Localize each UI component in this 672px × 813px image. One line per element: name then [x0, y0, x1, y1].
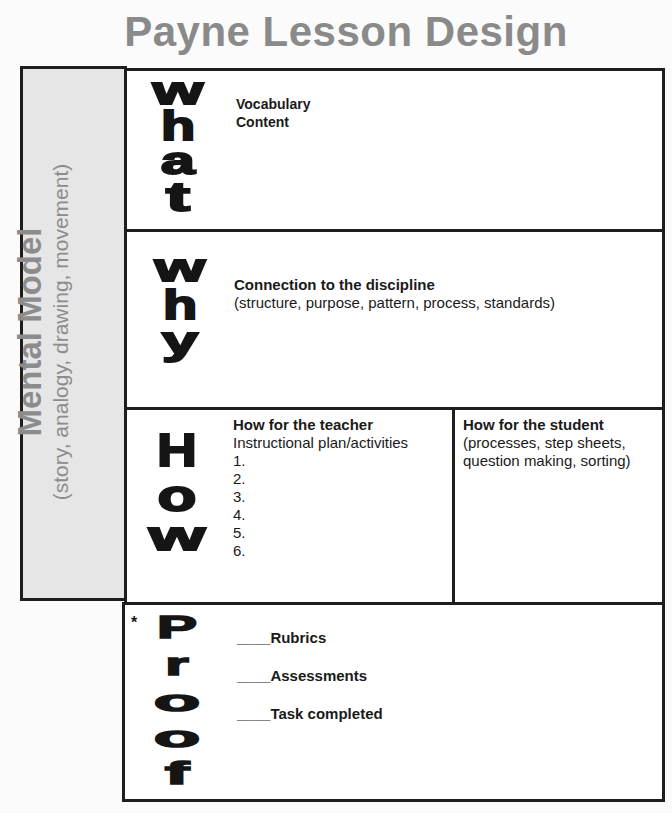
checklist-blank[interactable]: ____ — [237, 629, 270, 646]
why-stacked-letters: w h y — [145, 250, 215, 358]
page-title: Payne Lesson Design — [0, 8, 672, 56]
checklist-label: Task completed — [270, 705, 382, 722]
letter-o: o — [126, 476, 228, 516]
what-content: Content — [236, 113, 310, 131]
what-vocabulary: Vocabulary — [236, 95, 310, 113]
how-student-detail-1: (processes, step sheets, — [463, 434, 631, 452]
checklist-item-task-completed[interactable]: ____Task completed — [237, 705, 383, 723]
why-text: Connection to the discipline (structure,… — [234, 276, 555, 312]
checklist-blank[interactable]: ____ — [237, 705, 270, 722]
checklist-label: Assessments — [270, 667, 367, 684]
letter-o: o — [111, 687, 244, 714]
list-item: 6. — [233, 542, 408, 560]
letter-w: w — [121, 250, 240, 286]
mental-model-subtitle: (story, analogy, drawing, movement) — [48, 82, 74, 582]
checklist-item-rubrics[interactable]: ____Rubrics — [237, 629, 383, 647]
proof-stacked-letters: P r o o f — [142, 608, 212, 792]
how-teacher-list: 1. 2. 3. 4. 5. 6. — [233, 452, 408, 560]
checklist-blank[interactable]: ____ — [237, 667, 270, 684]
proof-checklist: ____Rubrics ____Assessments ____Task com… — [237, 629, 383, 723]
list-item: 2. — [233, 470, 408, 488]
how-student-text: How for the student (processes, step she… — [463, 416, 631, 470]
list-item: 1. — [233, 452, 408, 470]
what-stacked-letters: w h a t — [143, 74, 213, 216]
letter-h: h — [129, 108, 227, 144]
list-item: 3. — [233, 488, 408, 506]
mental-model-label: Mental Model (story, analogy, drawing, m… — [12, 82, 112, 582]
why-heading: Connection to the discipline — [234, 276, 555, 294]
letter-w: w — [114, 516, 240, 556]
how-stacked-letters: H o w — [142, 424, 212, 556]
how-student-heading: How for the student — [463, 416, 631, 434]
list-item: 5. — [233, 524, 408, 542]
how-teacher-text: How for the teacher Instructional plan/a… — [233, 416, 408, 560]
letter-H: H — [135, 424, 219, 476]
letter-h: h — [131, 286, 229, 324]
mental-model-title: Mental Model — [12, 82, 48, 582]
letter-P: P — [125, 612, 230, 642]
letter-a: a — [122, 144, 234, 178]
letter-y: y — [121, 324, 240, 358]
letter-r: r — [125, 650, 230, 679]
letter-f: f — [114, 758, 240, 788]
how-teacher-subheading: Instructional plan/activities — [233, 434, 408, 452]
how-teacher-heading: How for the teacher — [233, 416, 408, 434]
list-item: 4. — [233, 506, 408, 524]
why-detail: (structure, purpose, pattern, process, s… — [234, 294, 555, 312]
letter-t: t — [115, 178, 241, 216]
checklist-item-assessments[interactable]: ____Assessments — [237, 667, 383, 685]
checklist-label: Rubrics — [270, 629, 326, 646]
what-text: Vocabulary Content — [236, 95, 310, 131]
letter-o: o — [111, 723, 244, 750]
how-student-detail-2: question making, sorting) — [463, 452, 631, 470]
letter-w: w — [119, 74, 238, 108]
